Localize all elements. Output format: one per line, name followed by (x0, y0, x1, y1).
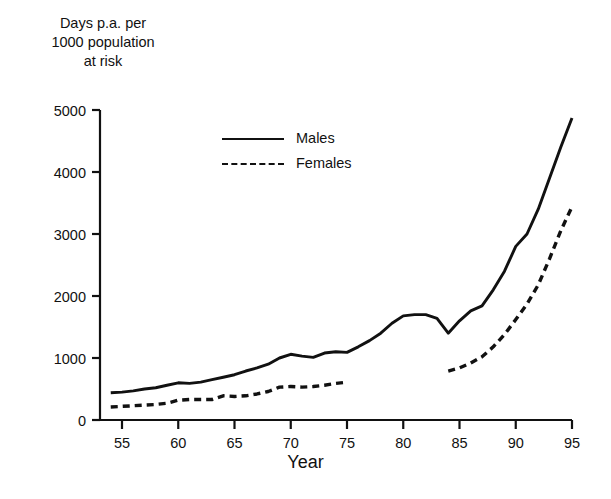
y-axis-tick-label: 1000 (54, 351, 86, 367)
legend-line-dashed-icon (222, 157, 284, 171)
x-axis-tick-label: 90 (508, 435, 524, 451)
x-axis-title: Year (0, 452, 611, 473)
legend-label-males: Males (296, 126, 335, 151)
y-axis-tick-label: 4000 (54, 165, 86, 181)
x-axis-tick-label: 70 (283, 435, 299, 451)
series-line-females (111, 382, 347, 407)
x-axis-tick-label: 80 (395, 435, 411, 451)
chart-plot-area: 010002000300040005000556065707580859095 (0, 0, 611, 499)
chart-legend: Males Females (222, 126, 352, 176)
legend-line-solid-icon (222, 132, 284, 146)
y-axis-tick-label: 5000 (54, 103, 86, 119)
legend-item-females: Females (222, 151, 352, 176)
x-axis-tick-label: 60 (170, 435, 186, 451)
chart-container: Days p.a. per 1000 population at risk 01… (0, 0, 611, 499)
y-axis-tick-label: 3000 (54, 227, 86, 243)
series-line-females (448, 207, 572, 371)
x-axis-tick-label: 55 (114, 435, 130, 451)
y-axis-tick-label: 0 (78, 413, 86, 429)
x-axis-tick-label: 85 (451, 435, 467, 451)
x-axis-tick-label: 75 (339, 435, 355, 451)
x-axis-tick-label: 65 (226, 435, 242, 451)
x-axis-tick-label: 95 (564, 435, 580, 451)
legend-item-males: Males (222, 126, 352, 151)
legend-label-females: Females (296, 151, 352, 176)
y-axis-tick-label: 2000 (54, 289, 86, 305)
